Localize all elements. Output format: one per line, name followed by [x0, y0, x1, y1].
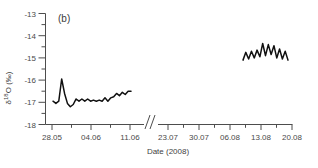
y-axis: [39, 14, 46, 125]
x-tick-label: 23.07: [158, 133, 179, 142]
data-series-line-segment-2: [243, 43, 288, 60]
y-tick-label: -13: [24, 10, 36, 19]
y-tick-labels: -13 -14 -15 -16 -17 -18: [24, 10, 36, 130]
x-tick-labels: 28.05 04.06 11.06 23.07 30.07 06.08 13.0…: [42, 133, 303, 142]
data-series-line-segment-1: [53, 79, 131, 107]
y-axis-title: δ18O (‰): [3, 71, 13, 104]
x-tick-label: 28.05: [42, 133, 63, 142]
y-tick-label: -18: [24, 121, 36, 130]
x-axis: [46, 125, 293, 131]
svg-text:δ18O (‰): δ18O (‰): [3, 71, 13, 104]
x-tick-label: 04.06: [81, 133, 102, 142]
chart-figure: -13 -14 -15 -16 -17 -18 δ18O (‰): [0, 0, 318, 168]
x-tick-label: 30.07: [189, 133, 210, 142]
axis-break-mark: [144, 115, 158, 131]
y-tick-label: -15: [24, 54, 36, 63]
panel-label: (b): [58, 13, 70, 24]
x-tick-label: 11.06: [120, 133, 140, 142]
x-axis-title: Date (2008): [147, 147, 190, 156]
y-title-rest: O (‰): [4, 71, 13, 93]
x-tick-label: 20.08: [282, 133, 303, 142]
x-tick-label: 13.08: [251, 133, 272, 142]
y-tick-label: -16: [24, 76, 36, 85]
y-tick-label: -14: [24, 32, 36, 41]
delta-o18-time-series-chart: -13 -14 -15 -16 -17 -18 δ18O (‰): [0, 0, 318, 168]
y-tick-label: -17: [24, 98, 36, 107]
x-tick-label: 06.08: [220, 133, 241, 142]
